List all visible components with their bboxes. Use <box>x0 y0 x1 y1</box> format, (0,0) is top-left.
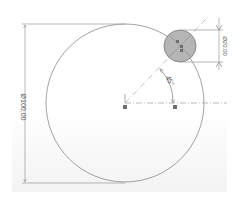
large-diameter-label[interactable]: Ø100.00 <box>20 94 27 121</box>
sketch-drawing: 45° Ø100.00 Ø20.00 <box>0 0 245 202</box>
small-diameter-label[interactable]: Ø20.00 <box>222 36 228 56</box>
sketch-canvas[interactable]: 45° Ø100.00 Ø20.00 <box>0 0 245 202</box>
angle-label[interactable]: 45° <box>164 74 175 87</box>
small-circle-point-c[interactable] <box>180 49 183 52</box>
small-circle-point-a[interactable] <box>176 40 179 43</box>
small-circle-point-b[interactable] <box>180 45 183 48</box>
origin-point[interactable] <box>123 105 127 109</box>
arc-end-point[interactable] <box>173 105 177 109</box>
